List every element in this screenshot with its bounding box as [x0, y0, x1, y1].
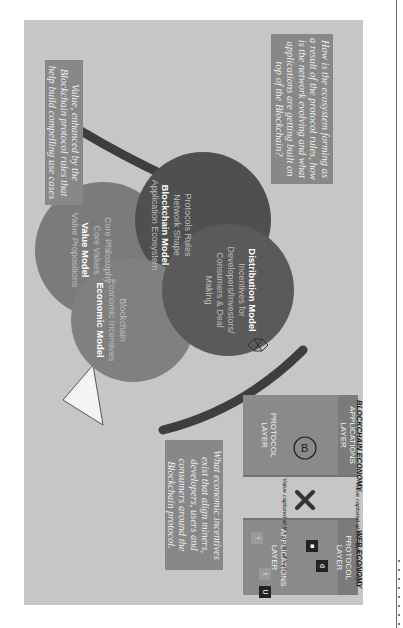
- blockchain-model-title: Blockchain Model: [160, 170, 171, 280]
- blockchain-item-app-ecosystem: Application Ecosystem: [149, 170, 160, 280]
- facebook-icon: f: [251, 532, 263, 544]
- value-question-box: Value, enhanced by the Blockchain protoc…: [45, 60, 83, 205]
- economic-item-blockchain: Blockchain: [117, 270, 128, 370]
- app-icon: ■: [306, 540, 318, 552]
- page-edge-rule: [396, 0, 397, 628]
- economic-item-incentives: Economic Incentives: [106, 270, 117, 370]
- economic-model-title: Economic Model: [95, 270, 106, 370]
- economic-model-text: Blockchain Economic Incentives Economic …: [95, 270, 128, 370]
- blockchain-protocol-layer-label: PROTOCOL LAYER: [260, 400, 278, 470]
- incentives-question-box: What economic incentives exist that alig…: [165, 440, 223, 570]
- blockchain-model-text: Protocols Rules Network Shape Blockchain…: [149, 170, 193, 280]
- svg-text:B: B: [301, 442, 308, 454]
- arrow-head-bottom: [63, 365, 103, 425]
- distribution-model-title: Distribution Model: [247, 240, 258, 340]
- distribution-item-incentives: Incentives for Developers/Investors/ Con…: [203, 240, 247, 340]
- x-icon: [297, 492, 313, 508]
- ecosystem-question-box: How is the ecosystem forming as a result…: [271, 34, 333, 184]
- blockchain-protocol-layer-block: [243, 395, 338, 475]
- blockchain-economy-label: BLOCKCHAIN ECONOMY: [355, 400, 363, 491]
- app-icon-2: d: [316, 560, 328, 572]
- uber-icon: U: [259, 586, 271, 598]
- web-protocol-layer-label: PROTOCOL LAYER: [335, 525, 353, 590]
- web-value-caption: Value captured at the applications layer: [355, 482, 361, 587]
- blockchain-item-protocol-rules: Protocols Rules: [182, 170, 193, 280]
- value-item-propositions: Value Propositions: [69, 195, 80, 305]
- twitter-icon: t: [259, 568, 271, 580]
- blockchain-item-network-shape: Network Shape: [171, 170, 182, 280]
- distribution-model-text: Distribution Model Incentives for Develo…: [203, 240, 258, 340]
- page-margin-marks: [398, 560, 400, 628]
- blockchain-business-model-figure: B Value, enhanced by the Blockchain prot…: [24, 20, 363, 605]
- value-model-title: Value Model: [80, 195, 91, 305]
- web-applications-layer-label: APPLICATIONS LAYER: [270, 525, 288, 590]
